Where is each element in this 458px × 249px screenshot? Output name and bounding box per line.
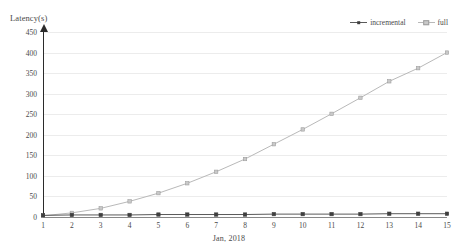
data-point-full[interactable] bbox=[243, 157, 246, 160]
data-point-incremental[interactable] bbox=[359, 212, 362, 215]
data-point-full[interactable] bbox=[157, 191, 160, 194]
data-point-incremental[interactable] bbox=[272, 212, 275, 215]
data-point-incremental[interactable] bbox=[301, 212, 304, 215]
data-point-full[interactable] bbox=[128, 200, 131, 203]
data-point-incremental[interactable] bbox=[128, 213, 131, 216]
data-point-incremental[interactable] bbox=[157, 213, 160, 216]
data-point-incremental[interactable] bbox=[243, 213, 246, 216]
data-point-incremental[interactable] bbox=[388, 212, 391, 215]
data-point-incremental[interactable] bbox=[445, 212, 448, 215]
series-line-full bbox=[43, 53, 447, 216]
data-point-full[interactable] bbox=[445, 51, 448, 54]
data-point-full[interactable] bbox=[272, 143, 275, 146]
series-layer bbox=[0, 0, 458, 249]
data-point-incremental[interactable] bbox=[416, 212, 419, 215]
data-point-full[interactable] bbox=[330, 112, 333, 115]
data-point-incremental[interactable] bbox=[70, 213, 73, 216]
data-point-full[interactable] bbox=[214, 170, 217, 173]
latency-line-chart: Latency(s) incremental full 050100150200… bbox=[0, 0, 458, 249]
data-point-incremental[interactable] bbox=[99, 213, 102, 216]
data-point-incremental[interactable] bbox=[186, 213, 189, 216]
data-point-full[interactable] bbox=[388, 80, 391, 83]
data-point-incremental[interactable] bbox=[330, 212, 333, 215]
data-point-full[interactable] bbox=[359, 96, 362, 99]
x-axis-title: Jan, 2018 bbox=[0, 234, 458, 243]
data-point-full[interactable] bbox=[301, 128, 304, 131]
data-point-incremental[interactable] bbox=[214, 213, 217, 216]
data-point-full[interactable] bbox=[99, 207, 102, 210]
data-point-incremental[interactable] bbox=[41, 214, 44, 217]
data-point-full[interactable] bbox=[186, 182, 189, 185]
data-point-full[interactable] bbox=[416, 66, 419, 69]
